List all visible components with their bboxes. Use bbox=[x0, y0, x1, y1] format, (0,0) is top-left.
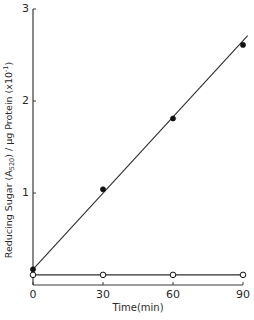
y-label-prefix: Reducing Sugar (A bbox=[3, 170, 14, 258]
x-tick-label: 30 bbox=[96, 289, 110, 300]
x-tick-label: 90 bbox=[236, 289, 250, 300]
data-markers bbox=[30, 42, 246, 277]
chart-canvas bbox=[0, 0, 254, 320]
filled-circle-marker bbox=[30, 267, 35, 272]
filled-circle-marker bbox=[240, 42, 245, 47]
filled-circle-marker bbox=[100, 187, 105, 192]
open-circle-marker bbox=[240, 272, 246, 278]
x-tick-label: 60 bbox=[166, 289, 180, 300]
axes bbox=[33, 9, 243, 285]
y-tick-label: 2 bbox=[22, 95, 29, 106]
x-axis-label: Time(min) bbox=[112, 302, 163, 313]
fit-lines bbox=[33, 36, 248, 275]
x-tick-label: 0 bbox=[30, 289, 37, 300]
open-circle-marker bbox=[100, 272, 106, 278]
y-label-middle: ) / μg Protein (x10 bbox=[3, 72, 14, 158]
y-axis-label: Reducing Sugar (A520) / μg Protein (x10-… bbox=[2, 62, 16, 258]
open-circle-marker bbox=[170, 272, 176, 278]
open-circle-marker bbox=[30, 272, 36, 278]
y-label-superscript: -1 bbox=[2, 65, 10, 71]
y-tick-label: 1 bbox=[22, 187, 29, 198]
filled-circle-marker bbox=[170, 116, 175, 121]
y-label-suffix: ) bbox=[3, 62, 14, 66]
y-label-subscript: 520 bbox=[8, 158, 16, 170]
fit-line bbox=[33, 36, 248, 270]
y-tick-label: 3 bbox=[22, 3, 29, 14]
